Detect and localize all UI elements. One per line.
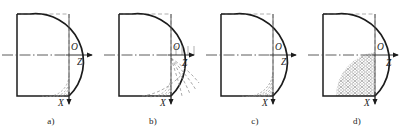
figure-container: O Z X a) <box>0 0 407 129</box>
panel-d-drawing: O Z X <box>306 0 407 112</box>
panel-caption-c: c) <box>204 116 306 126</box>
z-axis-label-c: Z <box>281 57 287 67</box>
z-axis-label-b: Z <box>182 58 188 68</box>
origin-label-b: O <box>173 42 180 52</box>
panel-caption-a: a) <box>0 116 102 126</box>
panel-b: O Z X b) <box>102 0 204 129</box>
panel-c: O Z X c) <box>204 0 306 129</box>
panel-d: O Z X d) <box>306 0 407 129</box>
x-axis-label-c: X <box>261 98 269 108</box>
corner-arcs-a <box>42 76 69 97</box>
origin-label-c: O <box>275 42 282 52</box>
corner-rubble-fill-d <box>336 52 375 96</box>
panel-a: O Z X a) <box>0 0 102 129</box>
panel-a-drawing: O Z X <box>0 0 102 112</box>
corner-arcs-b <box>146 78 171 97</box>
origin-label-d: O <box>377 42 384 52</box>
x-axis-label-d: X <box>363 98 371 108</box>
external-flow-curves-b <box>142 58 199 96</box>
origin-label-a: O <box>71 42 78 52</box>
panel-caption-b: b) <box>102 116 204 126</box>
panel-caption-d: d) <box>306 116 407 126</box>
x-axis-label-b: X <box>159 98 167 108</box>
x-axis-label-a: X <box>57 98 65 108</box>
corner-arcs-c <box>242 71 273 96</box>
z-axis-label-a: Z <box>77 57 83 67</box>
panel-b-drawing: O Z X <box>102 0 204 112</box>
z-axis-label-d: Z <box>386 58 392 68</box>
panel-c-drawing: O Z X <box>204 0 306 112</box>
